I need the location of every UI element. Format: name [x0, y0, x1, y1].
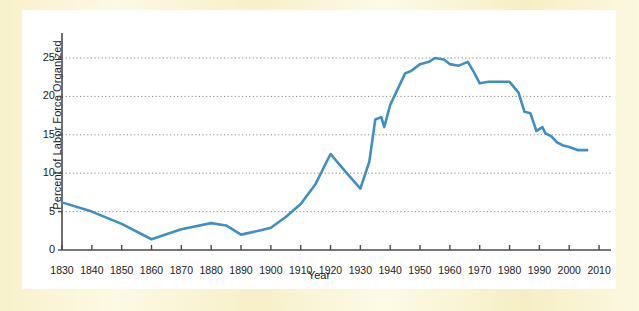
plot-area: Percent of Labor Force Organized Year 05…	[23, 11, 615, 288]
gridlines	[62, 58, 611, 212]
axes	[62, 33, 611, 250]
data-series	[62, 58, 587, 239]
tick-marks	[58, 58, 599, 250]
series-line	[62, 58, 587, 239]
chart-card: Percent of Labor Force Organized Year 05…	[23, 11, 615, 288]
chart-svg	[23, 11, 615, 288]
figure-page: Percent of Labor Force Organized Year 05…	[0, 0, 639, 311]
